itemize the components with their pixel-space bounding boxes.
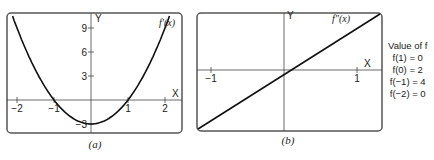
panel-a-caption: (a) (89, 138, 102, 151)
panel-a: −2−112963−3 f′(x) X Y (a) (7, 13, 182, 151)
figure: −2−112963−3 f′(x) X Y (a) −11 f″(x) X Y … (0, 0, 434, 160)
values-row: f(−1) = 4 (388, 76, 427, 88)
panel-a-x-label: X (172, 88, 179, 99)
panel-a-y-tick-label: 3 (81, 71, 87, 82)
values-table-title: Value of f (388, 40, 427, 52)
panel-a-x-tick-label: 2 (162, 103, 168, 114)
panel-b-curve (198, 14, 380, 129)
panel-b: −11 f″(x) X Y (b) (197, 10, 382, 147)
panel-a-y-label: Y (95, 13, 102, 24)
panel-a-frame (7, 13, 182, 133)
panel-b-y-label: Y (287, 10, 294, 21)
panel-b-x-tick-label: −1 (205, 73, 217, 84)
values-row: f(0) = 2 (388, 64, 427, 76)
panel-a-y-tick-label: 9 (81, 23, 87, 34)
panel-b-x-tick-label: 1 (354, 73, 360, 84)
panel-a-x-tick-label: −2 (11, 103, 23, 114)
panel-a-curve-label: f′(x) (159, 17, 176, 29)
panel-a-x-tick-label: 1 (125, 103, 131, 114)
panel-b-x-label: X (364, 58, 371, 69)
values-row: f(−2) = 0 (388, 88, 427, 100)
values-table: Value of f f(1) = 0 f(0) = 2 f(−1) = 4 f… (388, 40, 427, 100)
panel-a-y-tick-label: 6 (81, 47, 87, 58)
panel-b-caption: (b) (282, 134, 295, 147)
panel-b-curve-label: f″(x) (332, 13, 351, 25)
values-row: f(1) = 0 (388, 52, 427, 64)
